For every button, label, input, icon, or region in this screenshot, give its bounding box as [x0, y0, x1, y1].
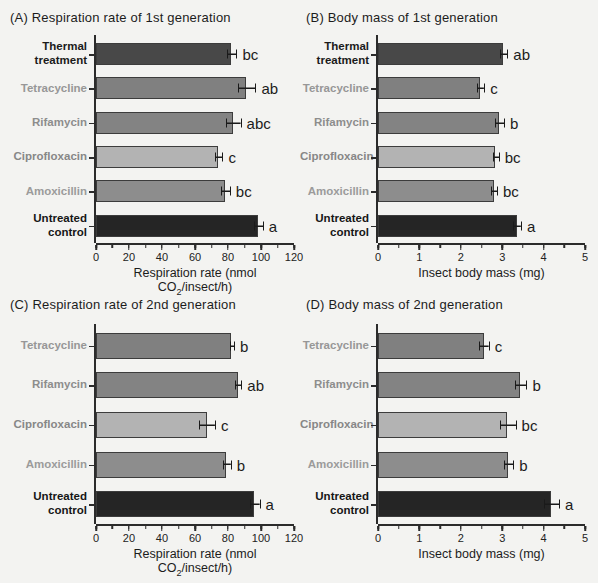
- significance-letter: a: [266, 496, 274, 513]
- bar-track: bc: [96, 174, 294, 208]
- significance-letter: ab: [247, 377, 264, 394]
- bar-track: abc: [96, 106, 294, 140]
- tick-label: 0: [93, 251, 99, 263]
- minor-tick: [522, 245, 524, 248]
- significance-letter: bc: [503, 183, 519, 200]
- major-tick: [293, 526, 295, 531]
- x-axis-label: Insect body mass (mg): [378, 266, 585, 283]
- minor-tick: [244, 526, 246, 529]
- bar-row: Tetracyclinec: [300, 71, 585, 105]
- minor-tick: [398, 245, 400, 248]
- significance-letter: b: [532, 377, 540, 394]
- minor-tick: [439, 526, 441, 529]
- bar-track: b: [378, 445, 585, 485]
- bar: [96, 77, 246, 99]
- tick-label: 40: [156, 532, 168, 544]
- bar: [96, 333, 231, 359]
- bar: [96, 43, 231, 65]
- error-bar: [230, 341, 235, 350]
- bar-track: bc: [378, 405, 585, 445]
- significance-letter: bc: [505, 149, 521, 166]
- bar-track: b: [378, 366, 585, 406]
- chart-title: (A) Respiration rate of 1st generation: [10, 10, 294, 25]
- significance-letter: bc: [236, 183, 252, 200]
- significance-letter: bc: [242, 46, 258, 63]
- x-axis-label-text: Insect body mass (mg): [418, 266, 544, 280]
- major-tick: [501, 245, 503, 250]
- error-bar: [226, 118, 241, 127]
- tick-label: 0: [93, 532, 99, 544]
- minor-tick: [439, 245, 441, 248]
- tick-label: 100: [252, 532, 270, 544]
- bar-track: a: [378, 209, 585, 243]
- tick-label: 0: [375, 532, 381, 544]
- major-tick: [584, 526, 586, 531]
- tick-label: 80: [222, 251, 234, 263]
- bar-track: ab: [96, 71, 294, 105]
- chart-body: TetracyclinecRifamycinbCiprofloxacinbcAm…: [300, 326, 585, 564]
- category-label: Rifamycin: [300, 378, 378, 392]
- x-axis: 020406080100120: [96, 524, 294, 545]
- minor-tick: [398, 526, 400, 529]
- category-label: Amoxicillin: [300, 458, 378, 472]
- significance-letter: a: [269, 217, 277, 234]
- bar-track: ab: [378, 37, 585, 71]
- major-tick: [460, 245, 462, 250]
- tick-label: 0: [375, 251, 381, 263]
- tick-label: 4: [541, 251, 547, 263]
- plot-rows: Thermal treatmentbcTetracyclineabRifamyc…: [4, 37, 294, 243]
- bar-track: a: [96, 209, 294, 243]
- minor-tick: [211, 526, 213, 529]
- minor-tick: [211, 245, 213, 248]
- major-tick: [128, 526, 130, 531]
- major-tick: [227, 245, 229, 250]
- tick-label: 20: [123, 532, 135, 544]
- chart-title: (B) Body mass of 1st generation: [306, 10, 585, 25]
- major-tick: [584, 245, 586, 250]
- bar: [378, 491, 551, 517]
- bar-row: Ciprofloxacinbc: [300, 140, 585, 174]
- bar: [378, 333, 484, 359]
- bar-track: bc: [378, 174, 585, 208]
- error-bar: [235, 381, 242, 390]
- minor-tick: [112, 245, 114, 248]
- category-label: Untreated control: [300, 212, 378, 240]
- bar: [378, 372, 520, 398]
- panel-c-respiration-2nd-gen: (C) Respiration rate of 2nd generation T…: [0, 292, 298, 583]
- category-label: Thermal treatment: [4, 40, 96, 68]
- tick-label: 60: [189, 532, 201, 544]
- bar-row: Untreated controla: [4, 484, 294, 524]
- category-label: Ciprofloxacin: [300, 418, 378, 432]
- bar-row: Ciprofloxacinbc: [300, 405, 585, 445]
- chart-body: Thermal treatmentbcTetracyclineabRifamyc…: [4, 37, 294, 297]
- significance-letter: b: [510, 114, 518, 131]
- tick-label: 40: [156, 251, 168, 263]
- plot-rows: TetracyclinebRifamycinabCiprofloxacincAm…: [4, 326, 294, 524]
- major-tick: [419, 526, 421, 531]
- major-tick: [543, 526, 545, 531]
- bar-row: Ciprofloxacinc: [4, 140, 294, 174]
- major-tick: [260, 245, 262, 250]
- category-label: Thermal treatment: [300, 40, 378, 68]
- major-tick: [501, 526, 503, 531]
- bar-row: Amoxicillinb: [4, 445, 294, 485]
- category-label: Ciprofloxacin: [4, 418, 96, 432]
- major-tick: [95, 526, 97, 531]
- tick-label: 60: [189, 251, 201, 263]
- significance-letter: c: [228, 149, 236, 166]
- bar: [96, 372, 238, 398]
- bar: [96, 112, 233, 134]
- tick-label: 5: [582, 532, 588, 544]
- x-axis: 012345: [378, 243, 585, 264]
- error-bar: [544, 500, 560, 509]
- major-tick: [95, 245, 97, 250]
- bar: [96, 180, 225, 202]
- significance-letter: bc: [522, 416, 538, 433]
- major-tick: [128, 245, 130, 250]
- bar-row: Thermal treatmentab: [300, 37, 585, 71]
- bar: [378, 412, 507, 438]
- minor-tick: [564, 245, 566, 248]
- bar-track: b: [378, 106, 585, 140]
- x-axis-label-text: /insect/h): [182, 561, 233, 575]
- error-bar: [250, 500, 260, 509]
